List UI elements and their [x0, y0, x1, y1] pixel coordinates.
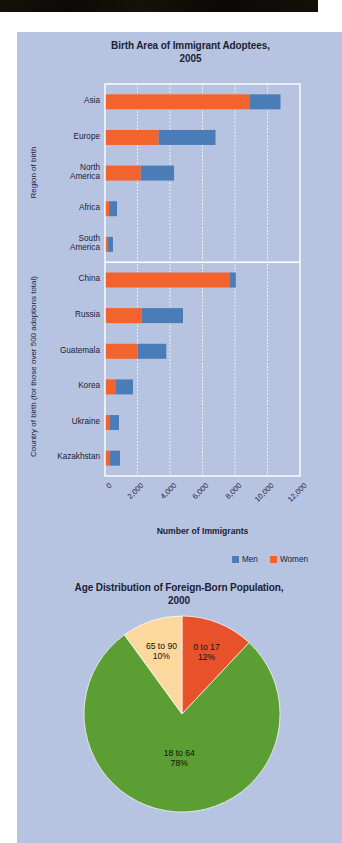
bar-category-label-line: America	[10, 172, 100, 181]
bar-category-label-line: Guatemala	[10, 346, 100, 355]
bar-category-label: China	[10, 274, 100, 283]
bar-segment	[105, 273, 229, 288]
bar-category-label-line: China	[10, 274, 100, 283]
bar-segment	[105, 379, 116, 394]
bar-segment	[105, 166, 141, 181]
bar-category-label-line: Korea	[10, 381, 100, 390]
bar-axis-group-label-country: Country of birth (for those over 500 ado…	[29, 253, 38, 481]
bar-chart-title: Birth Area of Immigrant Adoptees, 2005	[48, 40, 333, 65]
legend-label-men: Men	[242, 555, 258, 564]
bar-category-label: Russia	[10, 310, 100, 319]
bar-segment	[108, 237, 113, 252]
legend-entry-men[interactable]: Men	[232, 555, 258, 564]
bar-category-label: Europe	[10, 132, 100, 141]
pie-slice-label: 18 to 6478%	[142, 748, 216, 768]
bar-category-label-line: Europe	[10, 132, 100, 141]
legend-swatch-women	[270, 556, 277, 563]
pie-slice-value: 10%	[124, 651, 198, 661]
bar-segment	[229, 273, 236, 288]
bar-category-label-line: South	[10, 234, 100, 243]
bar-category-label-line: Asia	[10, 96, 100, 105]
pie-chart-title-line-2: 2000	[22, 595, 336, 608]
bar-chart-title-line-2: 2005	[48, 53, 333, 66]
bar-segment	[138, 344, 167, 359]
pie-chart-title-line-1: Age Distribution of Foreign-Born Populat…	[22, 582, 336, 595]
bar-category-label-line: Ukraine	[10, 417, 100, 426]
bar-segment	[110, 415, 119, 430]
bar-segment	[141, 166, 174, 181]
bar-chart-legend: Men Women	[232, 555, 308, 564]
bar-segment	[105, 94, 250, 109]
bar-category-label: Guatemala	[10, 346, 100, 355]
bar-category-label: Asia	[10, 96, 100, 105]
bar-category-label: NorthAmerica	[10, 163, 100, 182]
bar-x-axis-title: Number of Immigrants	[120, 526, 285, 536]
bar-segment	[142, 308, 183, 323]
bar-axis-group-label-region: Region of birth	[29, 123, 38, 223]
bar-segment	[116, 379, 133, 394]
pie-slice-name: 18 to 64	[142, 748, 216, 758]
bar-segment	[105, 344, 138, 359]
bar-category-label-line: Africa	[10, 203, 100, 212]
page-root: Birth Area of Immigrant Adoptees, 2005 A…	[0, 0, 342, 843]
bar-category-label: SouthAmerica	[10, 234, 100, 253]
bar-category-label: Africa	[10, 203, 100, 212]
bar-segment	[105, 451, 110, 466]
pie-slice-value: 78%	[142, 758, 216, 768]
bar-category-label-line: Russia	[10, 310, 100, 319]
pie-slice-name: 65 to 90	[124, 641, 198, 651]
bar-category-label-line: North	[10, 163, 100, 172]
bar-category-label-line: America	[10, 243, 100, 252]
bar-segment	[250, 94, 281, 109]
bar-segment	[109, 201, 117, 216]
legend-label-women: Women	[280, 555, 308, 564]
bar-segment	[105, 130, 159, 145]
bar-segment	[105, 308, 142, 323]
bar-category-label: Ukraine	[10, 417, 100, 426]
bar-segment	[159, 130, 216, 145]
bar-segment	[105, 415, 110, 430]
bar-category-label: Kazakhstan	[10, 452, 100, 461]
pie-slice-label: 65 to 9010%	[124, 641, 198, 661]
legend-entry-women[interactable]: Women	[270, 555, 308, 564]
bar-chart-title-line-1: Birth Area of Immigrant Adoptees,	[48, 40, 333, 53]
bar-category-label: Korea	[10, 381, 100, 390]
legend-swatch-men	[232, 556, 239, 563]
bar-category-label-line: Kazakhstan	[10, 452, 100, 461]
bar-segment	[110, 451, 120, 466]
pie-chart-title: Age Distribution of Foreign-Born Populat…	[22, 582, 336, 607]
